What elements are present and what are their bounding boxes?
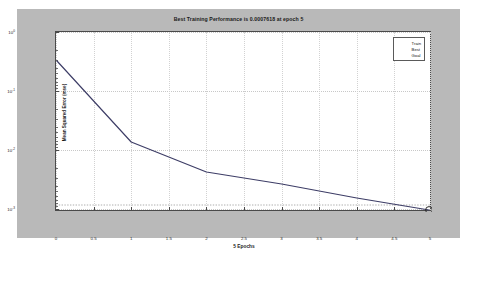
y-axis-label: Mean Squared Error (mse) <box>62 43 67 183</box>
x-axis-label: 5 Epochs <box>56 244 432 249</box>
x-tick-label: 2.5 <box>241 236 247 241</box>
x-tick-label: 0.5 <box>91 236 97 241</box>
x-tick-label: 1.5 <box>166 236 172 241</box>
x-tick-label: 5 <box>429 236 431 241</box>
chart-title: Best Training Performance is 0.0007618 a… <box>17 16 460 22</box>
y-tick-label: 100 <box>8 29 15 35</box>
y-tick-label: 10-3 <box>7 206 15 212</box>
legend-box[interactable]: Train Best Goal <box>393 37 425 61</box>
x-tick-label: 0 <box>55 236 57 241</box>
y-tick-label: 10-1 <box>7 88 15 94</box>
legend-label-goal: Goal <box>412 53 421 58</box>
plot-axes: 100 10-1 10-2 10-3 0 0.5 1 1.5 2 2.5 3 3… <box>55 31 431 211</box>
train-curve <box>57 61 429 210</box>
x-tick-label: 3 <box>280 236 282 241</box>
legend-item-goal[interactable]: Goal <box>396 52 421 58</box>
legend-label-best: Best <box>412 47 420 52</box>
plot-canvas <box>56 32 432 212</box>
x-tick-label: 4 <box>356 236 358 241</box>
y-tick-label: 10-2 <box>7 147 15 153</box>
figure-window: Best Training Performance is 0.0007618 a… <box>17 9 460 238</box>
legend-label-train: Train <box>412 41 421 46</box>
x-tick-label: 3.5 <box>316 236 322 241</box>
x-tick-label: 4.5 <box>391 236 397 241</box>
x-tick-label: 1 <box>130 236 132 241</box>
x-tick-label: 2 <box>205 236 207 241</box>
